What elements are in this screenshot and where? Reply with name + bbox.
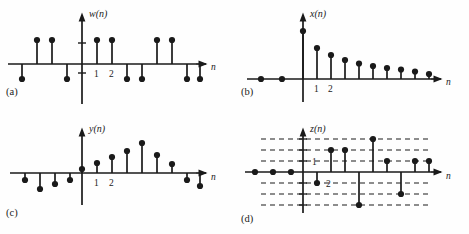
- panel-d-axis-label: n: [446, 171, 451, 181]
- panel-d-tag: (d): [241, 213, 253, 224]
- panel-b-signal-label: x(n): [309, 8, 327, 20]
- panel-a: w(n) 1 2 n (a): [0, 0, 235, 117]
- panel-d-signal-label: z(n): [309, 123, 326, 135]
- axes-a: [8, 13, 208, 105]
- panel-b: x(n) 1 2 n (b): [235, 0, 469, 117]
- panel-c: y(n) 1 2 n (c): [0, 117, 235, 234]
- panel-d-tick-1: 1: [312, 157, 317, 167]
- panel-a-signal-label: w(n): [89, 8, 108, 20]
- panel-b-tag: (b): [241, 86, 253, 97]
- panel-a-axis-label: n: [211, 62, 216, 72]
- figure-container: w(n) 1 2 n (a): [0, 0, 469, 234]
- panel-c-signal-label: y(n): [88, 123, 106, 135]
- panel-a-tag: (a): [6, 86, 18, 97]
- panel-a-tick-1: 1: [94, 69, 99, 79]
- panel-a-chart: w(n) 1 2 n: [0, 0, 235, 117]
- axes-c: [10, 128, 208, 206]
- panel-b-tick-2: 2: [328, 84, 333, 94]
- panel-d-tick-2: 2: [326, 179, 331, 189]
- panel-c-tag: (c): [6, 207, 18, 218]
- panel-d: z(n) 1 2 n (d): [235, 117, 469, 234]
- panel-b-tick-1: 1: [314, 84, 319, 94]
- panel-a-tick-2: 2: [109, 69, 114, 79]
- panel-b-chart: x(n) 1 2 n: [235, 0, 469, 117]
- panel-c-tick-2: 2: [109, 178, 114, 188]
- panel-d-chart: z(n) 1 2 n: [235, 117, 469, 234]
- panel-c-chart: y(n) 1 2 n: [0, 117, 235, 234]
- stems-b: [303, 31, 429, 79]
- panel-c-axis-label: n: [211, 172, 216, 182]
- panel-c-tick-1: 1: [94, 178, 99, 188]
- panel-b-axis-label: n: [446, 77, 451, 87]
